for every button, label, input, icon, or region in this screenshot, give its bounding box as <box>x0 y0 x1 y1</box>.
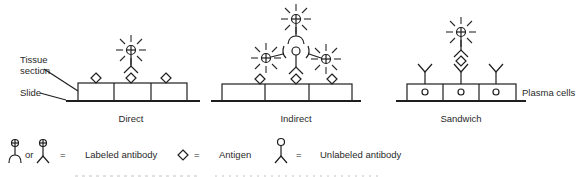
cell-nucleus <box>458 89 464 95</box>
labeled-antibody-icon <box>251 43 286 73</box>
legend-or: or <box>25 149 33 160</box>
plasma-cells-label: Plasma cells <box>522 87 576 98</box>
unlabeled-antibody-icon <box>289 47 303 74</box>
slide-pointer <box>40 93 66 100</box>
labeled-antibody-y-icon <box>37 140 49 164</box>
caption-direct: Direct <box>119 113 144 124</box>
legend-antigen: Antigen <box>219 149 251 160</box>
labeled-antibody-icon <box>281 4 311 44</box>
cell-antibody-icon <box>454 64 468 84</box>
legend-unlabeled-antibody: Unlabeled antibody <box>320 149 402 160</box>
plasma-cells <box>407 84 516 101</box>
slide-label: Slide <box>20 87 41 98</box>
tissue-section <box>78 83 187 101</box>
legend: or = Labeled antibody = Antigen = Unlabe… <box>9 139 402 164</box>
labeled-antibody-icon <box>446 17 476 57</box>
antigen-icon <box>255 74 265 84</box>
legend-labeled-antibody: Labeled antibody <box>85 149 158 160</box>
labeled-antibody-cup-icon <box>9 140 21 164</box>
legend-equals: = <box>296 149 302 160</box>
tissue-section-pointer <box>44 69 78 91</box>
antigen-icon <box>126 73 136 83</box>
labeled-antibody-icon <box>116 35 146 73</box>
antigen-icon <box>456 56 466 66</box>
panel-indirect: Indirect <box>211 4 361 124</box>
caption-indirect: Indirect <box>280 113 312 124</box>
labeled-antibody-icon <box>306 44 341 74</box>
antigen-icon <box>327 74 337 84</box>
cell-nucleus <box>422 89 428 95</box>
antigen-legend-icon <box>178 150 188 160</box>
caption-sandwich: Sandwich <box>440 113 481 124</box>
tissue-section <box>222 84 352 101</box>
cell-antibody-icon <box>489 64 503 84</box>
tissue-section-label-1: Tissue <box>20 54 48 65</box>
cell-nucleus <box>493 89 499 95</box>
cell-antibody-icon <box>418 64 432 84</box>
legend-equals: = <box>194 149 200 160</box>
antigen-icon <box>91 73 101 83</box>
legend-equals: = <box>60 149 66 160</box>
panel-sandwich: Plasma cells Sandwich <box>396 17 576 124</box>
antigen-icon <box>161 73 171 83</box>
panel-direct: Tissue section Slide Direct <box>20 35 200 124</box>
immunofluorescence-diagram: Tissue section Slide Direct <box>0 0 576 177</box>
unlabeled-antibody-legend-icon <box>275 139 287 164</box>
antigen-icon <box>291 74 301 84</box>
